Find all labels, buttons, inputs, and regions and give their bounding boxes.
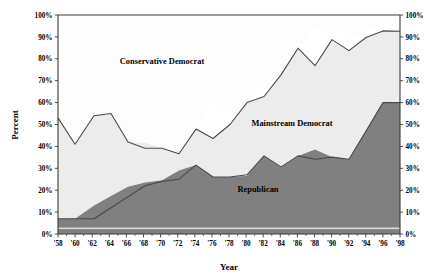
baseline-highlight-stripe	[58, 228, 400, 230]
y-axis-left-tick-label: 10%	[38, 209, 52, 217]
y-axis-left-tick-label: 30%	[38, 165, 52, 173]
x-axis-tick-label: '68	[139, 240, 149, 248]
y-axis-right-tick-label: 90%	[406, 34, 420, 42]
x-axis-tick-label: '82	[259, 240, 269, 248]
y-axis-right-tick-label: 70%	[406, 77, 420, 85]
x-axis-ticks: '58'60'62'64'66'68'70'72'74'76'78'80'82'…	[53, 234, 405, 248]
stacked-area-chart: 0%10%20%30%40%50%60%70%80%90%100% 0%10%2…	[0, 0, 443, 278]
y-axis-left-tick-label: 50%	[38, 121, 52, 129]
x-axis-title: Year	[220, 262, 238, 272]
x-axis-tick-label: '66	[122, 240, 132, 248]
y-axis-right-tick-label: 30%	[406, 165, 420, 173]
x-axis-tick-label: '98	[395, 240, 405, 248]
y-axis-right-tick-label: 100%	[406, 12, 424, 20]
x-axis-tick-label: '76	[207, 240, 217, 248]
label-conservative-democrat: Conservative Democrat	[120, 57, 205, 66]
y-axis-right-tick-label: 10%	[406, 209, 420, 217]
y-axis-right-ticks: 0%10%20%30%40%50%60%70%80%90%100%	[400, 12, 423, 239]
x-axis-tick-label: '96	[378, 240, 388, 248]
x-axis-tick-label: '62	[88, 240, 98, 248]
chart-canvas: 0%10%20%30%40%50%60%70%80%90%100% 0%10%2…	[0, 0, 443, 278]
y-axis-left-ticks: 0%10%20%30%40%50%60%70%80%90%100%	[35, 12, 58, 239]
y-axis-title: Percent	[10, 110, 20, 139]
label-republican: Republican	[238, 185, 279, 194]
y-axis-left-tick-label: 100%	[35, 12, 53, 20]
x-axis-tick-label: '58	[53, 240, 63, 248]
x-axis-tick-label: '78	[224, 240, 234, 248]
y-axis-right-tick-label: 0%	[406, 231, 417, 239]
x-axis-tick-label: '72	[173, 240, 183, 248]
x-axis-tick-label: '90	[327, 240, 337, 248]
y-axis-left-tick-label: 70%	[38, 77, 52, 85]
x-axis-tick-label: '86	[293, 240, 303, 248]
y-axis-left-tick-label: 20%	[38, 187, 52, 195]
x-axis-tick-label: '74	[190, 240, 200, 248]
x-axis-tick-label: '64	[105, 240, 115, 248]
y-axis-left-tick-label: 80%	[38, 55, 52, 63]
y-axis-right-tick-label: 20%	[406, 187, 420, 195]
x-axis-tick-label: '60	[71, 240, 81, 248]
x-axis-tick-label: '94	[361, 240, 371, 248]
x-axis-tick-label: '80	[242, 240, 252, 248]
y-axis-right-tick-label: 80%	[406, 55, 420, 63]
y-axis-right-tick-label: 50%	[406, 121, 420, 129]
y-axis-left-tick-label: 0%	[42, 231, 53, 239]
y-axis-right-tick-label: 40%	[406, 143, 420, 151]
x-axis-tick-label: '88	[310, 240, 320, 248]
x-axis-tick-label: '92	[344, 240, 354, 248]
y-axis-left-tick-label: 90%	[38, 34, 52, 42]
label-mainstream-democrat: Mainstream Democrat	[251, 119, 332, 128]
x-axis-tick-label: '70	[156, 240, 166, 248]
y-axis-left-tick-label: 40%	[38, 143, 52, 151]
y-axis-left-tick-label: 60%	[38, 99, 52, 107]
x-axis-tick-label: '84	[276, 240, 286, 248]
y-axis-right-tick-label: 60%	[406, 99, 420, 107]
